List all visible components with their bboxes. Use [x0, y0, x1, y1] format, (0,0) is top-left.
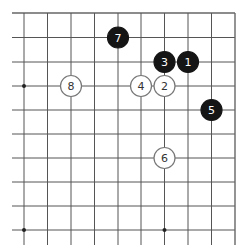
move-number: 4 [138, 80, 145, 93]
white-stone: 4 [131, 76, 152, 97]
move-number: 3 [161, 56, 168, 69]
go-board: 12345678 [0, 0, 246, 252]
black-stone: 1 [178, 52, 199, 73]
white-stone: 8 [61, 76, 82, 97]
move-number: 7 [115, 32, 122, 45]
move-number: 5 [208, 104, 215, 117]
move-number: 1 [185, 56, 192, 69]
move-number: 8 [68, 80, 75, 93]
star-point [163, 228, 167, 232]
move-number: 2 [161, 80, 168, 93]
white-stone: 2 [154, 76, 175, 97]
move-number: 6 [161, 152, 168, 165]
black-stone: 5 [201, 100, 222, 121]
board-grid [12, 13, 235, 245]
star-point [22, 84, 26, 88]
star-point [22, 228, 26, 232]
black-stone: 7 [108, 27, 129, 48]
white-stone: 6 [154, 148, 175, 169]
black-stone: 3 [154, 52, 175, 73]
